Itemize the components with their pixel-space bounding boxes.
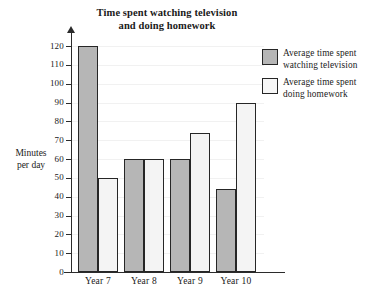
bar [144,159,164,272]
plot-area [72,46,264,272]
y-tick-label: 60 [38,155,64,164]
x-axis-line [64,272,285,273]
bar-group-container [72,46,264,272]
bar [78,46,98,272]
legend: Average time spent watching television A… [262,48,379,106]
y-tick-mark [66,140,71,141]
y-tick-mark [66,272,71,273]
y-tick-mark [66,65,71,66]
y-tick-label: 90 [38,98,64,107]
y-tick-mark [66,103,71,104]
y-tick-label: 10 [38,249,64,258]
chart-title-line-1: Time spent watching television [72,6,262,19]
chart-title-line-2: and doing homework [72,19,262,32]
y-tick-mark [66,159,71,160]
y-tick-label: 0 [38,268,64,277]
y-tick-label: 40 [38,192,64,201]
legend-label-television: Average time spent watching television [283,48,357,71]
y-tick-label: 120 [38,42,64,51]
y-tick-label: 80 [38,117,64,126]
legend-item-television: Average time spent watching television [262,48,379,71]
legend-label-homework-line-2: doing homework [283,89,356,101]
bar [236,103,256,273]
y-tick-mark [66,216,71,217]
y-tick-mark [66,234,71,235]
bar [124,159,144,272]
y-tick-label: 30 [38,211,64,220]
legend-label-television-line-2: watching television [283,60,357,72]
y-tick-mark [66,178,71,179]
legend-label-homework-line-1: Average time spent [283,77,356,89]
bar [216,189,236,272]
y-tick-mark [66,197,71,198]
y-tick-label: 100 [38,79,64,88]
legend-swatch-homework [262,78,278,94]
legend-label-homework: Average time spent doing homework [283,77,356,100]
y-tick-mark [66,84,71,85]
y-tick-mark [66,46,71,47]
y-tick-label: 110 [38,60,64,69]
bar [98,178,118,272]
y-tick-label: 20 [38,230,64,239]
legend-label-television-line-1: Average time spent [283,48,357,60]
bar [170,159,190,272]
bar-chart: Time spent watching television and doing… [0,0,379,301]
x-tick-label: Year 10 [206,276,266,287]
legend-swatch-television [262,49,278,65]
y-tick-mark [66,253,71,254]
legend-item-homework: Average time spent doing homework [262,77,379,100]
y-tick-label: 70 [38,136,64,145]
y-tick-label: 50 [38,173,64,182]
chart-title: Time spent watching television and doing… [72,6,262,32]
bar [190,133,210,272]
y-tick-mark [66,121,71,122]
